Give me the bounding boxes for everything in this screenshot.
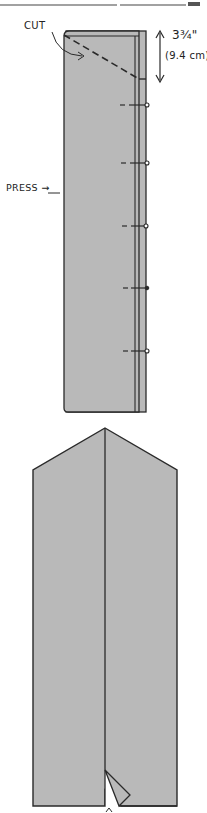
page-header-rule [0,2,200,6]
strip-front-layer [64,31,139,412]
measurement-metric: (9.4 cm) [165,50,207,61]
cut-label: CUT [24,20,45,31]
pointed-piece-figure [33,428,177,812]
measurement-arrow [156,31,164,82]
press-label: PRESS → [6,182,49,193]
measurement-imperial: 3¾" [172,28,198,42]
folded-strip-figure [48,31,164,412]
arrow-up-icon [106,808,112,812]
sewing-diagram [0,0,207,813]
